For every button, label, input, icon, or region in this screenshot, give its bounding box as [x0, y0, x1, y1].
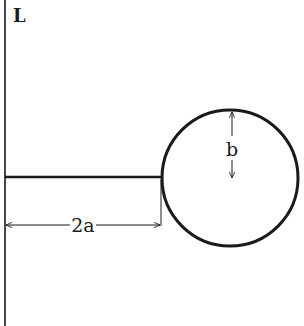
dimension-2a-label: 2a	[71, 214, 94, 236]
loop-circle	[162, 110, 298, 246]
line-L-label: L	[13, 5, 26, 26]
radius-b-label: b	[226, 138, 238, 160]
diagram-canvas: L 2a b	[0, 0, 304, 326]
